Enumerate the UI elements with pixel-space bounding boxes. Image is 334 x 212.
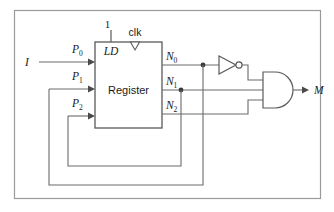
pin-p2-label: P	[71, 97, 79, 109]
constant-one-label: 1	[105, 18, 111, 30]
pin-n0-subscript: 0	[174, 56, 178, 65]
register-label: Register	[108, 84, 149, 96]
and-gate-body	[263, 72, 293, 108]
pin-n2-subscript: 2	[174, 105, 178, 114]
register-ld-label: LD	[103, 45, 119, 57]
circuit-diagram-figure: 1 clk LD Register I P 0 P 1 P 2 N 0 N 1 …	[0, 0, 334, 212]
arrow-p2	[88, 112, 95, 119]
arrow-p0	[88, 58, 95, 65]
pin-p2-subscript: 2	[79, 103, 83, 112]
pin-p0-subscript: 0	[79, 49, 83, 58]
arrow-p1	[88, 85, 95, 92]
pin-p1-subscript: 1	[79, 76, 83, 85]
wire-inverter-out	[242, 65, 263, 80]
pin-p1-label: P	[71, 70, 79, 82]
input-I-label: I	[24, 56, 30, 68]
inverter-bubble-icon	[236, 62, 242, 68]
output-M-label: M	[313, 84, 325, 96]
pin-p0-label: P	[71, 43, 79, 55]
clock-label: clk	[129, 26, 143, 38]
pin-n1-subscript: 1	[174, 81, 178, 90]
inverter-triangle	[219, 56, 236, 74]
arrow-m	[302, 86, 309, 93]
